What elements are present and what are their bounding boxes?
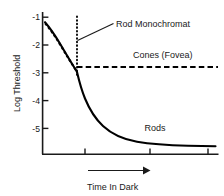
rods-label: Rods bbox=[145, 123, 167, 133]
axes bbox=[42, 12, 219, 154]
x-axis-title: Time In Dark bbox=[87, 182, 139, 192]
rod-monochromat-label: Rod Monochromat bbox=[116, 19, 191, 29]
arrow-head bbox=[143, 167, 151, 175]
y-tick-label-1: -1 bbox=[32, 12, 40, 22]
rod-monochromat-curve bbox=[45, 23, 77, 72]
cones-fovea-label: Cones (Fovea) bbox=[133, 50, 193, 60]
y-tick-label-4: -4 bbox=[32, 96, 40, 106]
y-axis-title: Log Threshold bbox=[12, 55, 22, 112]
dark-adaptation-curve-figure: -1 -2 -3 -4 -5 Log Threshold Rod Monochr… bbox=[0, 0, 224, 196]
y-axis-ticks bbox=[43, 17, 49, 128]
y-tick-label-2: -2 bbox=[32, 40, 40, 50]
rod-monochromat-leader-line bbox=[78, 24, 114, 41]
time-direction-arrow bbox=[88, 167, 151, 175]
y-tick-label-5: -5 bbox=[32, 124, 40, 134]
y-tick-label-3: -3 bbox=[32, 68, 40, 78]
chart-svg: -1 -2 -3 -4 -5 Log Threshold Rod Monochr… bbox=[0, 0, 224, 196]
rod-branch-curve bbox=[77, 72, 216, 146]
x-axis-ticks bbox=[85, 148, 208, 154]
y-axis-tick-labels: -1 -2 -3 -4 -5 bbox=[32, 12, 40, 133]
